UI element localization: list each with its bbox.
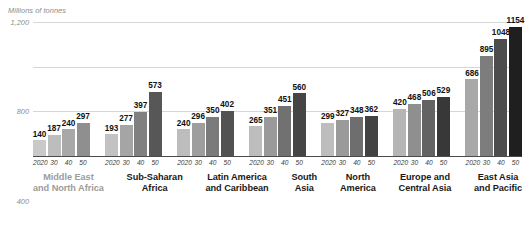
bar[interactable] <box>365 116 378 156</box>
group-caption: Sub-SaharanAfrica <box>127 172 183 206</box>
bar-column[interactable]: 402 <box>221 22 234 156</box>
x-tick-group: 2020304050 <box>465 157 522 168</box>
x-axis-tick-label: 40 <box>278 157 291 168</box>
bar-column[interactable]: 193 <box>105 22 118 156</box>
x-axis-tick-label: 40 <box>494 157 507 168</box>
bar-column[interactable]: 350 <box>206 22 219 156</box>
bar-value-label: 296 <box>191 113 205 121</box>
bar[interactable] <box>120 125 133 156</box>
bar-group: 265351451560 <box>249 22 306 156</box>
bar[interactable] <box>149 92 162 156</box>
x-tick-group: 2020304050 <box>105 157 162 168</box>
x-axis-tick-label: 50 <box>77 157 90 168</box>
bar-column[interactable]: 895 <box>480 22 493 156</box>
bar-column[interactable]: 265 <box>249 22 262 156</box>
group-caption: SouthAsia <box>291 172 317 206</box>
bar[interactable] <box>321 123 334 156</box>
x-axis-tick-label: 50 <box>509 157 522 168</box>
bar[interactable] <box>350 117 363 156</box>
bar-value-label: 686 <box>465 70 479 78</box>
bar[interactable] <box>480 56 493 156</box>
bar-column[interactable]: 573 <box>149 22 162 156</box>
x-tick-group: 2020304050 <box>249 157 306 168</box>
bar-column[interactable]: 348 <box>350 22 363 156</box>
y-axis-tick-label: 800 <box>17 107 29 116</box>
bar[interactable] <box>278 106 291 156</box>
bar[interactable] <box>393 109 406 156</box>
bar[interactable] <box>177 129 190 156</box>
y-axis-tick-label: 400 <box>17 196 29 205</box>
group-caption: East Asiaand Pacific <box>474 172 522 206</box>
bar-value-label: 560 <box>292 84 306 92</box>
x-axis-tick-label: 2020 <box>465 157 478 168</box>
bar-column[interactable]: 397 <box>134 22 147 156</box>
group-caption: Latin Americaand Caribbean <box>205 172 268 206</box>
x-axis-tick-label: 30 <box>48 157 61 168</box>
bar-column[interactable]: 277 <box>120 22 133 156</box>
group-caption-line: Middle East <box>33 172 104 183</box>
bar-column[interactable]: 297 <box>77 22 90 156</box>
x-axis-tick-labels: 2020304050202030405020203040502020304050… <box>33 157 522 168</box>
bar[interactable] <box>206 117 219 156</box>
bar[interactable] <box>465 79 478 156</box>
bar-column[interactable]: 686 <box>465 22 478 156</box>
bar[interactable] <box>494 39 507 156</box>
bar-value-label: 529 <box>437 87 451 95</box>
bar-column[interactable]: 451 <box>278 22 291 156</box>
bar[interactable] <box>77 123 90 156</box>
bar-column[interactable]: 299 <box>321 22 334 156</box>
group-caption-line: America <box>340 183 376 194</box>
plot-area: 04008001,200 140187240297193277397573240… <box>33 22 522 156</box>
group-captions: Middle Eastand North AfricaSub-SaharanAf… <box>33 172 522 206</box>
bar-value-label: 240 <box>62 120 76 128</box>
bar-value-label: 277 <box>119 115 133 123</box>
bar[interactable] <box>62 129 75 156</box>
bar-column[interactable]: 506 <box>422 22 435 156</box>
x-axis-tick-label: 2020 <box>33 157 46 168</box>
bar-group: 299327348362 <box>321 22 378 156</box>
bar[interactable] <box>336 120 349 157</box>
x-axis-tick-label: 30 <box>336 157 349 168</box>
bar-group: 193277397573 <box>105 22 162 156</box>
bar[interactable] <box>33 140 46 156</box>
bar-column[interactable]: 296 <box>192 22 205 156</box>
bar-column[interactable]: 1154 <box>509 22 522 156</box>
x-axis-tick-label: 2020 <box>393 157 406 168</box>
bar-column[interactable]: 240 <box>62 22 75 156</box>
bar-column[interactable]: 560 <box>293 22 306 156</box>
group-caption: Middle Eastand North Africa <box>33 172 104 206</box>
x-axis-tick-label: 30 <box>192 157 205 168</box>
bar[interactable] <box>264 117 277 156</box>
bar-column[interactable]: 187 <box>48 22 61 156</box>
bar-column[interactable]: 140 <box>33 22 46 156</box>
bar-value-label: 468 <box>408 94 422 102</box>
bar[interactable] <box>408 104 421 156</box>
bar[interactable] <box>249 126 262 156</box>
x-axis-tick-label: 50 <box>293 157 306 168</box>
bar-value-label: 350 <box>206 107 220 115</box>
group-caption-line: South <box>291 172 317 183</box>
group-caption: Europe andCentral Asia <box>399 172 452 206</box>
bar[interactable] <box>192 123 205 156</box>
bar-column[interactable]: 240 <box>177 22 190 156</box>
bar-column[interactable]: 529 <box>437 22 450 156</box>
bar-column[interactable]: 468 <box>408 22 421 156</box>
bar[interactable] <box>422 100 435 157</box>
bar-column[interactable]: 351 <box>264 22 277 156</box>
bar[interactable] <box>221 111 234 156</box>
bar-column[interactable]: 327 <box>336 22 349 156</box>
group-caption-line: and North Africa <box>33 183 104 194</box>
bar-group: 240296350402 <box>177 22 234 156</box>
bar-column[interactable]: 420 <box>393 22 406 156</box>
bar[interactable] <box>293 93 306 156</box>
bar-column[interactable]: 362 <box>365 22 378 156</box>
bar-group: 68689510481154 <box>465 22 522 156</box>
group-caption-line: Latin America <box>205 172 268 183</box>
bar[interactable] <box>134 112 147 156</box>
bar[interactable] <box>48 135 61 156</box>
bar-value-label: 351 <box>263 107 277 115</box>
bar[interactable] <box>437 97 450 156</box>
bar[interactable] <box>509 27 522 156</box>
bar[interactable] <box>105 134 118 156</box>
bar-column[interactable]: 1048 <box>494 22 507 156</box>
